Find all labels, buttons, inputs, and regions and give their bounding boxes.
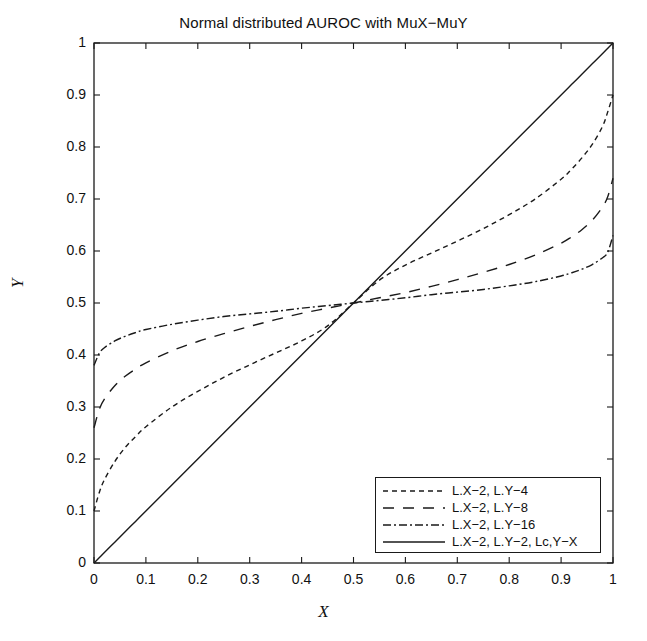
legend-swatch-dotted <box>382 484 446 498</box>
x-tick-label: 0.8 <box>489 571 529 587</box>
x-tick-label: 0.4 <box>282 571 322 587</box>
y-tick-label: 0.5 <box>46 294 86 310</box>
legend-item: L.X−2, L.Y−8 <box>382 499 594 516</box>
x-tick-label: 0.5 <box>334 571 374 587</box>
legend-item: L.X−2, L.Y−4 <box>382 482 594 499</box>
legend-item: L.X−2, L.Y−16 <box>382 516 594 533</box>
y-tick-label: 0 <box>46 554 86 570</box>
legend-swatch-solid <box>382 535 446 549</box>
legend-label: L.X−2, L.Y−2, Lc,Y−X <box>452 534 577 549</box>
x-tick-label: 0.1 <box>126 571 166 587</box>
y-tick-label: 0.3 <box>46 398 86 414</box>
x-tick-label: 0 <box>74 571 114 587</box>
y-tick-label: 0.8 <box>46 138 86 154</box>
x-tick-label: 0.2 <box>178 571 218 587</box>
x-tick-label: 0.9 <box>541 571 581 587</box>
legend-label: L.X−2, L.Y−16 <box>452 517 535 532</box>
x-tick-label: 0.3 <box>230 571 270 587</box>
legend-swatch-dashdot <box>382 518 446 532</box>
legend-swatch-dashed <box>382 501 446 515</box>
legend-label: L.X−2, L.Y−4 <box>452 483 528 498</box>
y-tick-label: 0.7 <box>46 190 86 206</box>
y-tick-label: 0.4 <box>46 346 86 362</box>
figure: Normal distributed AUROC with MuX−MuY 00… <box>0 0 647 641</box>
y-axis-label: Y <box>8 279 28 288</box>
y-tick-label: 0.9 <box>46 86 86 102</box>
x-axis-label: X <box>0 602 647 622</box>
legend-item: L.X−2, L.Y−2, Lc,Y−X <box>382 533 594 550</box>
legend: L.X−2, L.Y−4 L.X−2, L.Y−8 L.X−2, L.Y−16 … <box>375 477 601 553</box>
x-tick-label: 1 <box>593 571 633 587</box>
x-tick-label: 0.7 <box>437 571 477 587</box>
y-tick-label: 0.6 <box>46 242 86 258</box>
series-curve <box>94 235 613 365</box>
y-tick-label: 1 <box>46 34 86 50</box>
x-tick-label: 0.6 <box>385 571 425 587</box>
legend-label: L.X−2, L.Y−8 <box>452 500 528 515</box>
y-tick-label: 0.1 <box>46 502 86 518</box>
y-tick-label: 0.2 <box>46 450 86 466</box>
